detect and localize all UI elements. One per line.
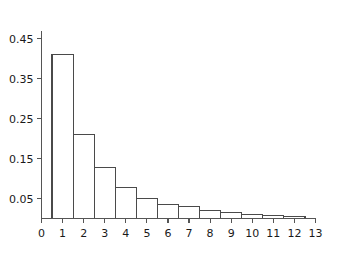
y-tick-label: 0.15 (9, 153, 34, 166)
x-tick-label: 3 (101, 227, 108, 240)
x-axis (42, 219, 316, 224)
x-tick-label: 11 (266, 227, 280, 240)
x-tick-label: 0 (38, 227, 45, 240)
x-tick-label: 9 (228, 227, 235, 240)
x-tick-label: 8 (207, 227, 214, 240)
chart-canvas: 0.050.150.250.350.45 012345678910111213 (0, 0, 341, 265)
y-tick-label: 0.05 (9, 193, 34, 206)
bars-group (52, 55, 305, 219)
x-tick-label: 5 (143, 227, 150, 240)
y-tick-label: 0.45 (9, 33, 34, 46)
x-tick-label: 12 (287, 227, 301, 240)
x-tick-label: 7 (186, 227, 193, 240)
bar (73, 135, 94, 219)
bar (242, 214, 263, 218)
bar (221, 213, 242, 219)
x-tick-label: 13 (309, 227, 323, 240)
bar (94, 167, 115, 218)
bar (52, 55, 73, 219)
x-tick-label: 2 (80, 227, 87, 240)
x-tick-label: 4 (122, 227, 129, 240)
x-tick-labels: 012345678910111213 (38, 227, 323, 240)
x-tick-label: 10 (245, 227, 259, 240)
y-tick-labels: 0.050.150.250.350.45 (9, 33, 34, 206)
bar (115, 188, 136, 219)
x-tick-label: 6 (164, 227, 171, 240)
bar (136, 198, 157, 218)
y-tick-label: 0.25 (9, 113, 34, 126)
bar (200, 210, 221, 218)
y-tick-label: 0.35 (9, 73, 34, 86)
histogram-chart: 0.050.150.250.350.45 012345678910111213 (0, 0, 341, 265)
x-tick-label: 1 (59, 227, 66, 240)
bar (157, 204, 178, 218)
y-axis (37, 31, 42, 219)
bar (179, 207, 200, 219)
